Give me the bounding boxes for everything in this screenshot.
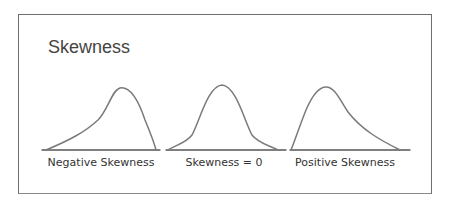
- curve-negative-skew: [46, 88, 156, 150]
- label-negative-skewness: Negative Skewness: [48, 156, 155, 169]
- skewness-curves: [0, 0, 449, 209]
- curve-symmetric: [168, 85, 278, 150]
- label-positive-skewness: Positive Skewness: [295, 156, 395, 169]
- curve-positive-skew: [291, 87, 400, 150]
- label-zero-skewness: Skewness = 0: [185, 156, 262, 169]
